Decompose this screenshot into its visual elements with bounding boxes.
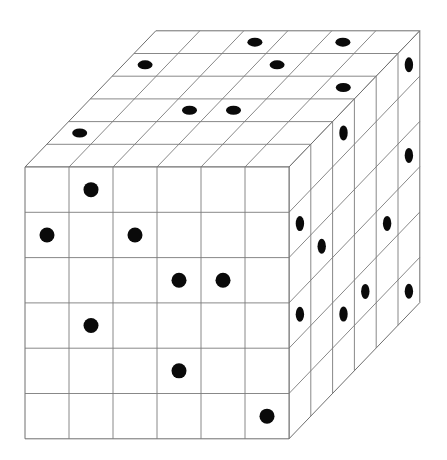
top-dot (336, 83, 351, 92)
front-dot (172, 273, 187, 288)
top-dot (72, 128, 87, 137)
front-dot (260, 409, 275, 424)
front-dot (128, 227, 143, 242)
right-dot (405, 148, 413, 163)
top-dot (270, 60, 285, 69)
right-dot (296, 216, 304, 231)
right-dot (339, 307, 347, 322)
front-dot (84, 318, 99, 333)
cube-diagram: 8 8 10 (0, 0, 447, 460)
right-dot (296, 307, 304, 322)
top-dot (182, 106, 197, 115)
cube-canvas (0, 0, 447, 460)
front-dot (216, 273, 231, 288)
top-dot (138, 60, 153, 69)
top-dot (226, 106, 241, 115)
right-dot (361, 284, 369, 299)
top-dot (335, 38, 350, 47)
right-dot (318, 239, 326, 254)
right-dot (405, 284, 413, 299)
front-dot (40, 227, 55, 242)
right-dot (405, 57, 413, 72)
front-dot (172, 363, 187, 378)
top-dot (247, 38, 262, 47)
right-dot (383, 216, 391, 231)
front-dot (84, 182, 99, 197)
front-face (25, 167, 289, 439)
right-dot (339, 125, 347, 140)
